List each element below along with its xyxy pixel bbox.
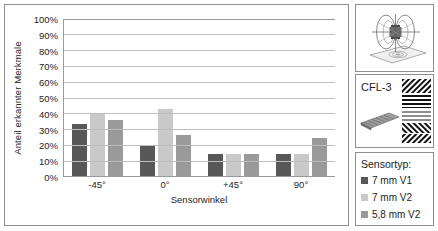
y-tick-label: 100% <box>34 14 58 25</box>
legend-swatch-icon <box>361 194 368 201</box>
legend-swatch-icon <box>361 177 368 184</box>
y-tick-label: 70% <box>39 61 58 72</box>
legend-item: 7 mm V2 <box>361 192 412 203</box>
bar <box>276 154 291 176</box>
gridline <box>64 161 335 162</box>
y-tick-label: 20% <box>39 140 58 151</box>
gridline <box>64 98 335 99</box>
y-tick-label: 0% <box>44 172 58 183</box>
x-axis-ticks: -45°0°+45°90° <box>63 179 335 190</box>
specimen-box: CFL-3 <box>355 74 434 148</box>
gridline <box>64 19 335 20</box>
y-axis-ticks: 0%10%20%30%40%50%60%70%80%90%100% <box>27 19 61 177</box>
side-column: CFL-3 <box>355 4 434 226</box>
y-tick-label: 60% <box>39 77 58 88</box>
x-tick-label: 90° <box>267 179 335 190</box>
specimen-label: CFL-3 <box>361 81 392 93</box>
y-tick-label: 50% <box>39 93 58 104</box>
chart-panel: Anteil erkannter Merkmale 0%10%20%30%40%… <box>4 4 349 226</box>
bar <box>72 124 87 176</box>
legend-swatch-icon <box>361 211 368 218</box>
x-axis-title: Sensorwinkel <box>63 194 335 205</box>
gridline <box>64 66 335 67</box>
legend-item-label: 5,8 mm V2 <box>372 209 420 220</box>
bar <box>158 109 173 176</box>
gridline <box>64 82 335 83</box>
bar <box>244 154 259 176</box>
y-axis-title-text: Anteil erkannter Merkmale <box>12 41 23 154</box>
sensor-illustration-box <box>355 4 434 72</box>
legend-title: Sensortyp: <box>361 158 411 170</box>
y-axis-title: Anteil erkannter Merkmale <box>9 23 25 173</box>
x-tick-label: +45° <box>199 179 267 190</box>
eddy-current-sensor-icon <box>360 8 430 69</box>
bar <box>226 154 241 176</box>
gridline <box>64 113 335 114</box>
plot-area <box>63 19 335 177</box>
y-tick-label: 40% <box>39 108 58 119</box>
bar <box>294 154 309 176</box>
x-tick-label: 0° <box>131 179 199 190</box>
y-tick-label: 80% <box>39 45 58 56</box>
plot-area-wrapper: 0%10%20%30%40%50%60%70%80%90%100% -45°0°… <box>27 19 343 215</box>
gridline <box>64 50 335 51</box>
gridline <box>64 34 335 35</box>
legend-item-label: 7 mm V2 <box>372 192 412 203</box>
legend-item: 7 mm V1 <box>361 175 412 186</box>
bar <box>176 135 191 176</box>
cfrp-laminate-icon <box>359 109 401 131</box>
y-tick-label: 90% <box>39 29 58 40</box>
y-tick-label: 10% <box>39 156 58 167</box>
gridline <box>64 129 335 130</box>
x-tick-label: -45° <box>63 179 131 190</box>
ply-layup-diagram <box>402 79 431 143</box>
legend-item: 5,8 mm V2 <box>361 209 420 220</box>
y-tick-label: 30% <box>39 124 58 135</box>
bar <box>312 138 327 176</box>
legend-box: Sensortyp: 7 mm V17 mm V25,8 mm V2 <box>355 152 434 226</box>
gridline <box>64 145 335 146</box>
figure-root: Anteil erkannter Merkmale 0%10%20%30%40%… <box>0 0 438 231</box>
legend-item-label: 7 mm V1 <box>372 175 412 186</box>
bar <box>208 154 223 176</box>
